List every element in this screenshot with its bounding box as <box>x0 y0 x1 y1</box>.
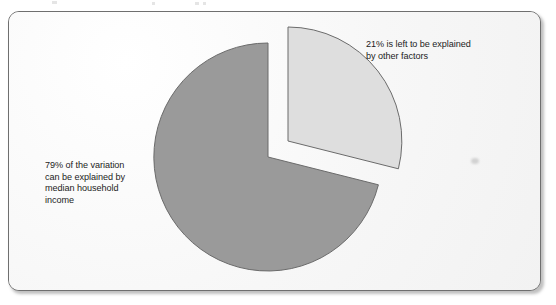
scan-speck-artifact <box>471 158 479 164</box>
annotation-other-factors: 21% is left to be explained by other fac… <box>366 39 541 62</box>
pie-chart-figure-panel: 21% is left to be explained by other fac… <box>8 11 541 291</box>
cropped-text-artifacts <box>0 0 556 9</box>
annotation-median-income: 79% of the variation can be explained by… <box>45 160 180 206</box>
